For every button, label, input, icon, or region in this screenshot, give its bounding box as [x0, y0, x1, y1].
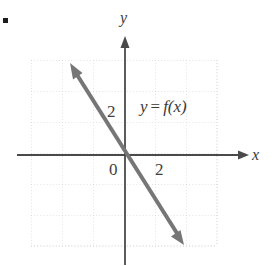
y-axis-label: y	[120, 10, 127, 26]
graph-plot	[0, 0, 276, 266]
origin-tick-label-0: 0	[109, 161, 118, 178]
y-axis-tick-label-2: 2	[107, 103, 116, 120]
x-axis-label: x	[252, 147, 259, 163]
y-axis-arrowhead	[121, 36, 130, 48]
equation-equals: =	[148, 97, 164, 116]
equation-fx: f(x)	[163, 97, 187, 116]
x-axis-tick-label-2: 2	[155, 161, 164, 178]
x-axis-arrowhead	[238, 151, 249, 160]
function-equation-label: y=f(x)	[140, 98, 187, 115]
grid-area	[31, 60, 217, 246]
figure-container: y x y=f(x) 2 0 2	[0, 0, 276, 266]
equation-y: y	[140, 97, 148, 116]
